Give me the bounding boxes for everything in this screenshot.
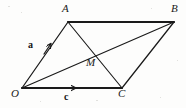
- vertex-label-B: B: [171, 3, 178, 14]
- vector-label-c: c: [64, 92, 68, 102]
- vector-label-a: a: [28, 40, 33, 50]
- geometry-figure: O A B C M a c: [0, 0, 186, 108]
- diagonal-AC: [68, 22, 122, 88]
- vertex-label-O: O: [11, 88, 19, 99]
- point-label-M: M: [86, 57, 95, 68]
- edge-BC: [122, 22, 174, 88]
- parallelogram-diagram: [0, 0, 186, 108]
- vertex-label-A: A: [62, 3, 69, 14]
- vertex-label-C: C: [118, 88, 125, 99]
